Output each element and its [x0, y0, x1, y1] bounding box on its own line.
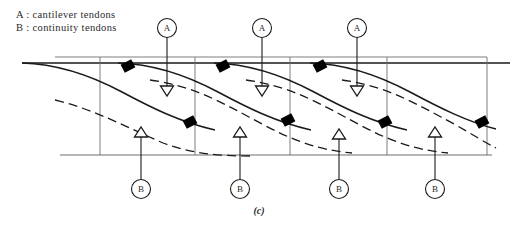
callout-a-arrowhead-2	[256, 86, 269, 96]
callout-a-arrowhead-3	[351, 86, 364, 96]
callout-b-4[interactable]: B	[426, 127, 445, 199]
continuity-tendon-2	[150, 80, 352, 153]
diagram-vector-layer: AAABBBB	[0, 0, 518, 228]
callout-b-arrowhead-1	[135, 127, 148, 137]
figure-container: A : cantilever tendons B : continuity te…	[0, 0, 518, 228]
continuity-tendon-4	[342, 80, 496, 148]
tendon-curves	[22, 63, 496, 156]
callout-a-label-2: A	[259, 23, 266, 33]
callout-a-arrowhead-1	[161, 86, 174, 96]
callout-a-label-1: A	[164, 23, 171, 33]
cantilever-tendon-4	[310, 63, 496, 129]
tendon-anchor-block-6	[378, 115, 393, 129]
callout-b-arrowhead-2	[234, 127, 247, 137]
callout-b-1[interactable]: B	[132, 127, 151, 199]
tendon-anchor-block-2	[216, 59, 231, 73]
callout-b-arrowhead-3	[333, 129, 346, 139]
callout-b-2[interactable]: B	[231, 127, 250, 199]
cantilever-tendon-3	[214, 63, 407, 130]
continuity-tendon-1	[55, 100, 250, 156]
callout-b-3[interactable]: B	[330, 129, 349, 199]
tendon-anchor-block-1	[121, 59, 136, 73]
callout-b-arrowhead-4	[429, 127, 442, 137]
callout-b-label-3: B	[336, 184, 342, 194]
callout-markers: AAABBBB	[132, 19, 445, 199]
callout-b-label-1: B	[138, 184, 144, 194]
callout-b-label-2: B	[237, 184, 243, 194]
continuity-tendon-3	[246, 80, 448, 153]
figure-caption: (c)	[0, 205, 518, 216]
callout-a-label-3: A	[354, 23, 361, 33]
callout-b-label-4: B	[432, 184, 438, 194]
tendon-anchor-block-3	[313, 59, 328, 73]
